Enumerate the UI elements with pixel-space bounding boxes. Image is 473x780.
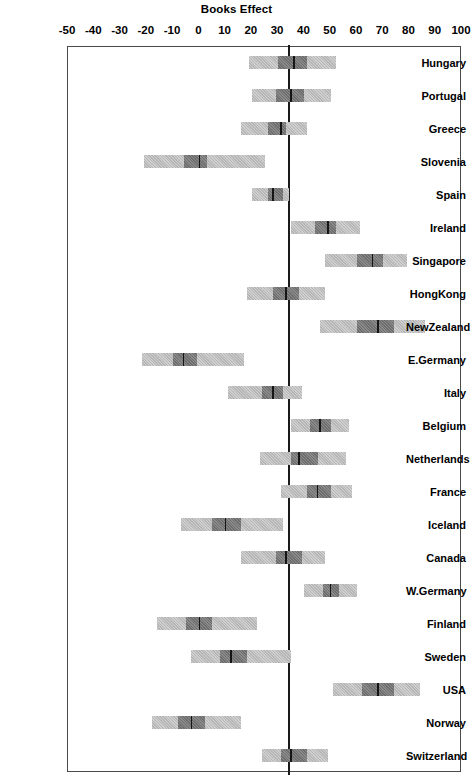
inner-interval-band: [281, 749, 307, 762]
y-tick-label: Slovenia: [406, 156, 473, 168]
interval-row: [68, 377, 462, 410]
y-tick-label: NewZealand: [406, 321, 473, 333]
point-estimate-marker: [372, 254, 374, 267]
point-estimate-marker: [293, 56, 295, 69]
inner-interval-band: [315, 221, 336, 234]
plot-area: [67, 46, 461, 772]
point-estimate-marker: [183, 353, 185, 366]
interval-row: [68, 245, 462, 278]
y-tick-label: Italy: [406, 387, 473, 399]
point-estimate-marker: [290, 89, 292, 102]
y-tick-label: E.Germany: [406, 354, 473, 366]
interval-row: [68, 410, 462, 443]
interval-row: [68, 476, 462, 509]
x-tick-label: -10: [164, 24, 181, 36]
point-estimate-marker: [285, 287, 287, 300]
point-estimate-marker: [377, 683, 379, 696]
interval-row: [68, 443, 462, 476]
interval-row: [68, 608, 462, 641]
x-tick-label: -30: [111, 24, 128, 36]
interval-row: [68, 542, 462, 575]
x-tick-label: 0: [195, 24, 201, 36]
y-tick-label: USA: [406, 684, 473, 696]
point-estimate-marker: [330, 584, 332, 597]
point-estimate-marker: [230, 650, 232, 663]
interval-row: [68, 47, 462, 80]
inner-interval-band: [291, 452, 317, 465]
interval-row: [68, 707, 462, 740]
interval-row: [68, 575, 462, 608]
point-estimate-marker: [317, 485, 319, 498]
y-tick-label: HongKong: [406, 288, 473, 300]
point-estimate-marker: [327, 221, 329, 234]
y-tick-label: Spain: [406, 189, 473, 201]
x-tick-label: 70: [376, 24, 389, 36]
inner-interval-band: [307, 485, 331, 498]
x-tick-label: 10: [218, 24, 231, 36]
interval-row: [68, 311, 462, 344]
y-tick-label: Ireland: [406, 222, 473, 234]
point-estimate-marker: [377, 320, 379, 333]
inner-interval-band: [268, 188, 284, 201]
y-tick-label: Finland: [406, 618, 473, 630]
y-tick-label: Sweden: [406, 651, 473, 663]
x-tick-label: 50: [323, 24, 336, 36]
y-tick-label: Canada: [406, 552, 473, 564]
x-tick-label: -40: [85, 24, 102, 36]
y-tick-label: Switzerland: [406, 750, 473, 762]
y-tick-label: W.Germany: [406, 585, 473, 597]
x-axis: -50-40-30-20-100102030405060708090100: [0, 24, 473, 44]
interval-row: [68, 80, 462, 113]
y-tick-label: Belgium: [406, 420, 473, 432]
x-tick-label: 100: [451, 24, 470, 36]
point-estimate-marker: [199, 155, 201, 168]
inner-interval-band: [357, 320, 394, 333]
point-estimate-marker: [290, 749, 292, 762]
interval-row: [68, 212, 462, 245]
chart-root: Books Effect -50-40-30-20-10010203040506…: [0, 0, 473, 780]
x-tick-label: 20: [244, 24, 257, 36]
interval-row: [68, 674, 462, 707]
point-estimate-marker: [191, 716, 193, 729]
y-tick-label: Netherlands: [406, 453, 473, 465]
point-estimate-marker: [272, 188, 274, 201]
point-estimate-marker: [285, 551, 287, 564]
y-tick-label: Iceland: [406, 519, 473, 531]
y-tick-label: Norway: [406, 717, 473, 729]
inner-interval-band: [276, 551, 302, 564]
y-tick-label: Greece: [406, 123, 473, 135]
point-estimate-marker: [272, 386, 274, 399]
interval-row: [68, 740, 462, 773]
point-estimate-marker: [225, 518, 227, 531]
y-tick-label: Singapore: [406, 255, 473, 267]
y-tick-label: Portugal: [406, 90, 473, 102]
inner-interval-band: [173, 353, 197, 366]
interval-row: [68, 641, 462, 674]
interval-row: [68, 278, 462, 311]
y-tick-label: France: [406, 486, 473, 498]
inner-interval-band: [220, 650, 246, 663]
point-estimate-marker: [298, 452, 300, 465]
inner-interval-band: [212, 518, 241, 531]
x-tick-label: -50: [59, 24, 76, 36]
x-tick-label: 40: [297, 24, 310, 36]
inner-interval-band: [357, 254, 383, 267]
interval-row: [68, 344, 462, 377]
inner-interval-band: [184, 155, 208, 168]
interval-row: [68, 146, 462, 179]
chart-title: Books Effect: [0, 3, 473, 15]
interval-row: [68, 113, 462, 146]
point-estimate-marker: [280, 122, 282, 135]
point-estimate-marker: [199, 617, 201, 630]
interval-row: [68, 509, 462, 542]
inner-interval-band: [268, 122, 286, 135]
x-tick-label: 30: [271, 24, 284, 36]
x-tick-label: 90: [428, 24, 441, 36]
x-tick-label: -20: [137, 24, 154, 36]
point-estimate-marker: [319, 419, 321, 432]
y-tick-label: Hungary: [406, 57, 473, 69]
x-tick-label: 60: [350, 24, 363, 36]
interval-row: [68, 179, 462, 212]
x-tick-label: 80: [402, 24, 415, 36]
